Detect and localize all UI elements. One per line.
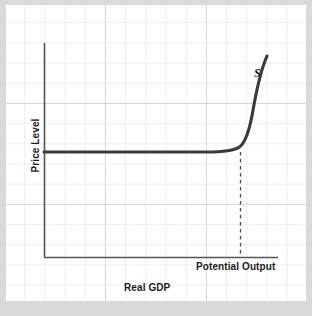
x-axis-label: Real GDP bbox=[124, 282, 170, 293]
supply-curve-label: S bbox=[254, 66, 261, 81]
supply-curve-path bbox=[44, 56, 267, 152]
y-axis-label: Price Level bbox=[30, 111, 41, 181]
aggregate-supply-chart: Price Level Real GDP Potential Output S bbox=[0, 0, 312, 316]
plot-area: Price Level Real GDP Potential Output S bbox=[6, 5, 306, 301]
chart-graphics bbox=[6, 5, 306, 301]
potential-output-label: Potential Output bbox=[196, 261, 275, 272]
